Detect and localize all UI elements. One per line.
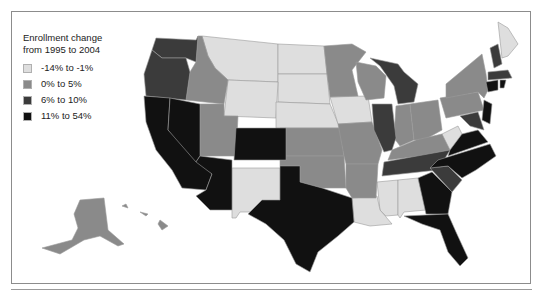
state-sd (278, 74, 330, 104)
state-co (234, 128, 286, 160)
legend-label: 0% to 5% (41, 78, 82, 90)
state-ri (500, 80, 506, 88)
state-oh (410, 100, 442, 140)
legend-item-light: -14% to -1% (23, 60, 118, 76)
legend: Enrollment change from 1995 to 2004 -14%… (23, 32, 118, 124)
state-md (460, 112, 484, 130)
state-ne (276, 102, 340, 128)
legend-item-mid: 0% to 5% (23, 76, 118, 92)
state-me (498, 22, 518, 58)
legend-swatch (23, 112, 32, 121)
state-ak (42, 198, 124, 254)
state-nd (278, 44, 327, 74)
state-ma (488, 70, 512, 80)
legend-label: -14% to -1% (41, 62, 93, 74)
state-ct (486, 80, 498, 92)
legend-swatch (23, 64, 32, 73)
legend-label: 11% to 54% (41, 110, 92, 122)
state-nj (482, 100, 492, 124)
legend-swatch (23, 80, 32, 89)
state-hi (122, 204, 168, 230)
state-wy (224, 80, 278, 118)
state-ar (346, 164, 378, 198)
state-ks (280, 128, 344, 156)
legend-title: Enrollment change from 1995 to 2004 (23, 32, 118, 56)
state-ny (446, 54, 488, 98)
legend-item-black: 11% to 54% (23, 108, 118, 124)
legend-swatch (23, 96, 32, 105)
legend-label: 6% to 10% (41, 94, 87, 106)
state-nh (490, 44, 502, 68)
state-fl (404, 214, 468, 266)
legend-item-dark: 6% to 10% (23, 92, 118, 108)
